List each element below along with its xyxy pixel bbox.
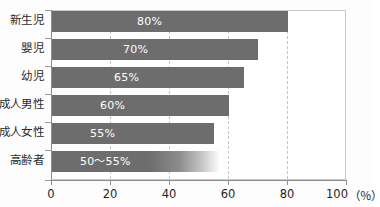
x-tick-label-60: 60 <box>221 187 236 201</box>
bar-value-3: 60% <box>100 95 125 116</box>
x-axis-unit-label: （％） <box>349 187 380 203</box>
x-tick-20 <box>110 180 111 185</box>
x-tick-label-100: 100 <box>326 187 348 201</box>
bar-value-2: 65% <box>114 67 139 88</box>
x-tick-label-80: 80 <box>280 187 295 201</box>
bar-value-5: 50〜55% <box>80 151 131 172</box>
bar-2 <box>52 67 244 88</box>
y-tick-1 <box>45 38 51 39</box>
y-tick-0 <box>45 10 51 11</box>
x-tick-80 <box>287 180 288 185</box>
bar-value-0: 80% <box>137 11 162 32</box>
bar-3 <box>52 95 229 116</box>
category-label-0: 新生児 <box>10 10 44 31</box>
y-tick-4 <box>45 122 51 123</box>
x-tick-0 <box>51 180 52 185</box>
category-label-2: 幼児 <box>21 66 44 87</box>
bar-0 <box>52 11 288 32</box>
y-axis-line <box>51 10 52 181</box>
x-tick-label-20: 20 <box>103 187 118 201</box>
x-axis-line <box>51 180 346 181</box>
x-tick-40 <box>169 180 170 185</box>
y-tick-5 <box>45 150 51 151</box>
x-tick-label-40: 40 <box>162 187 177 201</box>
bar-value-4: 55% <box>90 123 115 144</box>
category-label-4: 成人女性 <box>0 122 44 143</box>
y-tick-2 <box>45 66 51 67</box>
x-tick-60 <box>228 180 229 185</box>
category-label-5: 高齢者 <box>10 150 44 171</box>
category-label-1: 嬰児 <box>21 38 44 59</box>
plot-area: 80% 70% 65% 60% 55% 50〜55% <box>51 10 346 180</box>
bar-1 <box>52 39 258 60</box>
x-tick-label-0: 0 <box>47 187 54 201</box>
bar-value-1: 70% <box>123 39 148 60</box>
gridline-80 <box>287 11 288 179</box>
bar-4 <box>52 123 214 144</box>
x-tick-100 <box>346 180 347 185</box>
category-axis-labels: 新生児 嬰児 幼児 成人男性 成人女性 高齢者 <box>0 10 46 180</box>
category-label-3: 成人男性 <box>0 94 44 115</box>
y-tick-3 <box>45 94 51 95</box>
bar-5 <box>52 151 220 172</box>
